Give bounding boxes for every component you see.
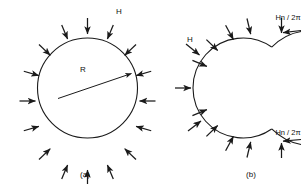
arc-outline-b bbox=[193, 38, 272, 138]
resultant-force-arrows-b bbox=[283, 31, 301, 142]
diagram-svg: H R (a) bbox=[0, 0, 304, 184]
panel-caption-a: (a) bbox=[80, 170, 90, 179]
panel-b: H Hn / 2π Hn / 2π (b) bbox=[175, 13, 301, 179]
panel-a: H R (a) bbox=[20, 7, 156, 184]
resultant-label-top: Hn / 2π bbox=[275, 13, 300, 22]
resultant-label-bottom: Hn / 2π bbox=[275, 128, 300, 137]
radius-label-r: R bbox=[80, 65, 86, 74]
load-label-h-b: H bbox=[187, 35, 193, 44]
panel-caption-b: (b) bbox=[246, 170, 256, 179]
radius-arrow-a bbox=[58, 74, 132, 99]
load-label-h-a: H bbox=[116, 7, 122, 16]
figure-canvas: H R (a) bbox=[0, 0, 304, 184]
top-end-segment-b bbox=[272, 32, 301, 48]
radial-load-arrows-a bbox=[20, 18, 156, 184]
